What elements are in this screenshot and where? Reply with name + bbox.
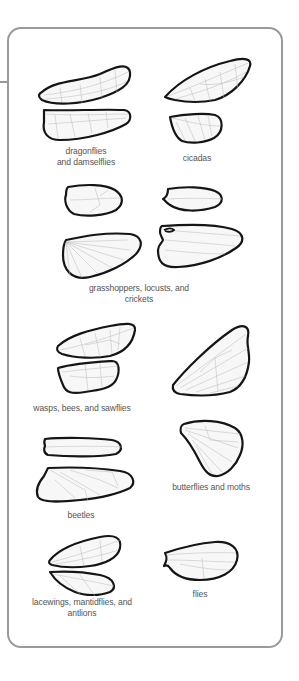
label-flies: flies	[193, 589, 208, 599]
label-dragonflies-line1: dragonflies	[66, 146, 107, 156]
grasshopper-forewing-left	[65, 185, 122, 216]
insect-wings-diagram: dragonflies and damselflies cicadas gras…	[0, 0, 299, 681]
label-grasshoppers-line1: grasshoppers, locusts, and	[89, 283, 189, 293]
label-butterflies: butterflies and moths	[172, 482, 250, 492]
label-lacewings-line2: antlions	[68, 608, 97, 618]
label-wasps: wasps, bees, and sawflies	[32, 403, 130, 413]
beetle-elytron	[44, 438, 121, 456]
label-dragonflies-line2: and damselflies	[57, 157, 115, 167]
label-cicadas: cicadas	[183, 153, 211, 163]
cicada-hindwing	[170, 114, 222, 143]
beetle-wings	[37, 438, 133, 502]
label-beetles: beetles	[67, 510, 94, 520]
label-grasshoppers-line2: crickets	[125, 294, 153, 304]
label-lacewings-line1: lacewings, mantidflies, and	[32, 597, 132, 607]
